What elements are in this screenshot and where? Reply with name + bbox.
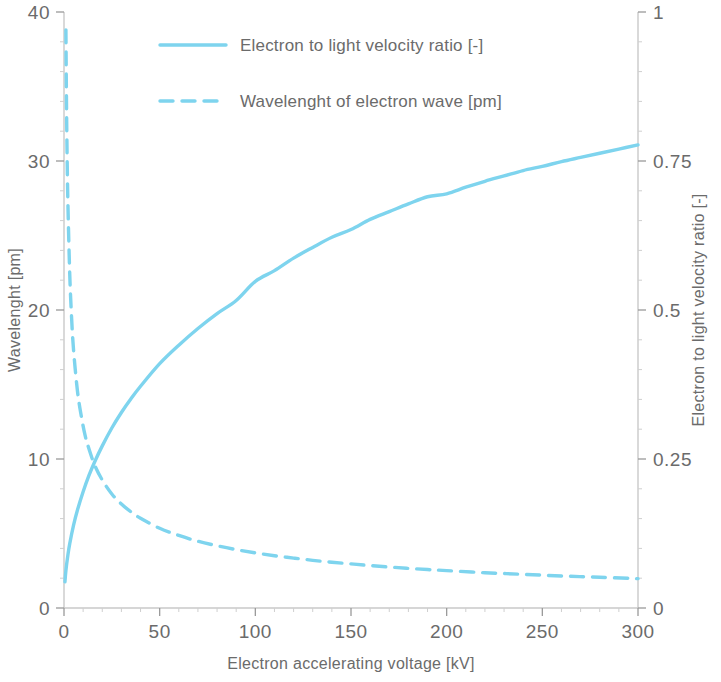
left-axis-ticks <box>56 12 64 608</box>
right-axis-ticks <box>638 12 646 608</box>
chart-container: 010203040 00.250.50.751 0501001502002503… <box>0 0 721 682</box>
bottom-tick-label: 250 <box>526 621 559 642</box>
chart-svg: 010203040 00.250.50.751 0501001502002503… <box>0 0 721 682</box>
bottom-axis-ticks <box>64 608 638 616</box>
legend-label-0: Electron to light velocity ratio [-] <box>240 36 483 55</box>
left-axis-tick-labels: 010203040 <box>28 2 50 619</box>
bottom-tick-label: 100 <box>239 621 272 642</box>
bottom-tick-label: 300 <box>621 621 654 642</box>
left-tick-label: 0 <box>39 598 50 619</box>
left-tick-label: 20 <box>28 300 50 321</box>
bottom-tick-label: 0 <box>58 621 69 642</box>
series-line-wavelength <box>66 30 638 579</box>
bottom-axis-tick-labels: 050100150200250300 <box>58 621 654 642</box>
series-line-velocity-ratio <box>65 145 638 582</box>
right-tick-label: 0.5 <box>653 300 681 321</box>
left-tick-label: 40 <box>28 2 50 23</box>
data-series-group <box>65 30 638 582</box>
chart-legend: Electron to light velocity ratio [-]Wave… <box>160 36 502 111</box>
right-tick-label: 0.25 <box>653 449 692 470</box>
left-tick-label: 30 <box>28 151 50 172</box>
right-axis-tick-labels: 00.250.50.751 <box>653 2 692 619</box>
right-tick-label: 0 <box>653 598 664 619</box>
right-tick-label: 1 <box>653 2 664 23</box>
right-axis-title: Electron to light velocity ratio [-] <box>690 193 707 426</box>
bottom-axis-title: Electron accelerating voltage [kV] <box>227 655 475 672</box>
right-tick-label: 0.75 <box>653 151 692 172</box>
left-axis-title: Wavelenght [pm] <box>6 248 23 372</box>
bottom-tick-label: 200 <box>430 621 463 642</box>
bottom-tick-label: 50 <box>149 621 171 642</box>
bottom-tick-label: 150 <box>334 621 367 642</box>
legend-label-1: Wavelenght of electron wave [pm] <box>240 92 502 111</box>
left-tick-label: 10 <box>28 449 50 470</box>
